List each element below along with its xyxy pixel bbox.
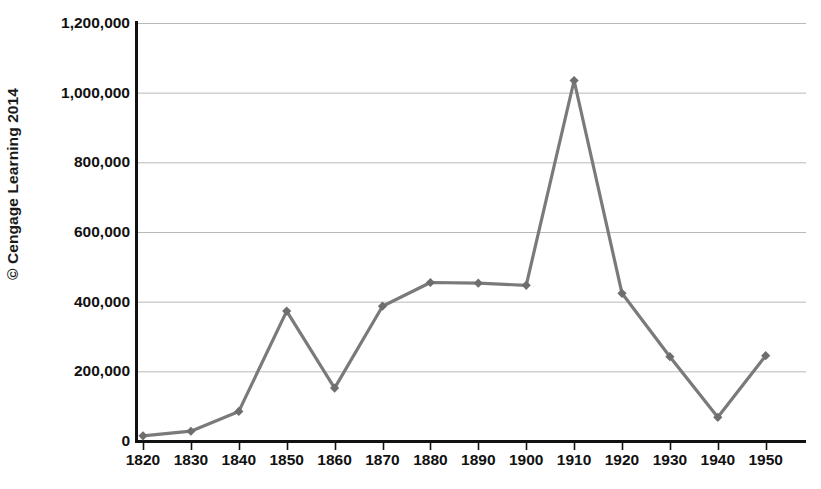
data-point-markers — [138, 76, 770, 441]
data-point-marker — [138, 431, 147, 440]
data-series-line — [143, 81, 766, 436]
data-point-marker — [474, 279, 483, 288]
x-axis-tick-label: 1950 — [736, 452, 796, 468]
data-point-marker — [570, 76, 579, 85]
gridlines — [137, 24, 806, 372]
chart-figure: © Cengage Learning 2014 0200,000400,0006… — [0, 0, 821, 489]
line-chart-plot — [0, 0, 821, 489]
data-point-marker — [186, 427, 195, 436]
data-point-marker — [522, 281, 531, 290]
